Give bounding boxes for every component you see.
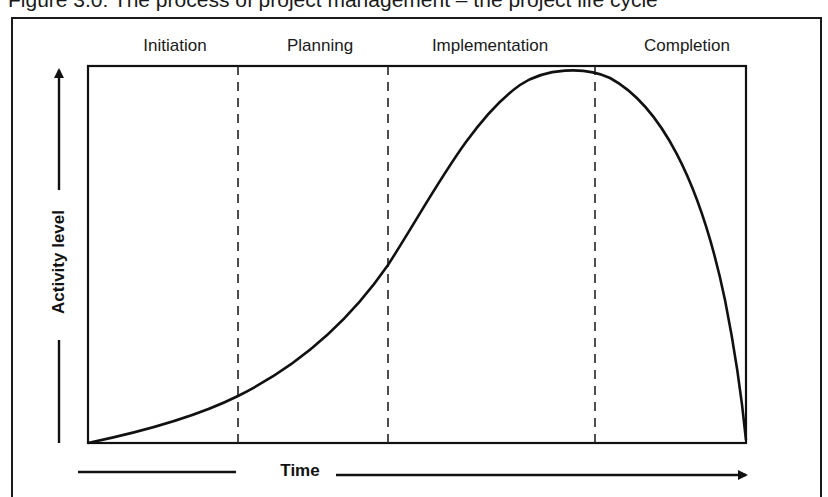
activity-curve <box>88 70 746 443</box>
x-axis-label: Time <box>280 461 319 481</box>
plot-area-box <box>88 66 746 443</box>
y-axis-label: Activity level <box>49 210 69 314</box>
